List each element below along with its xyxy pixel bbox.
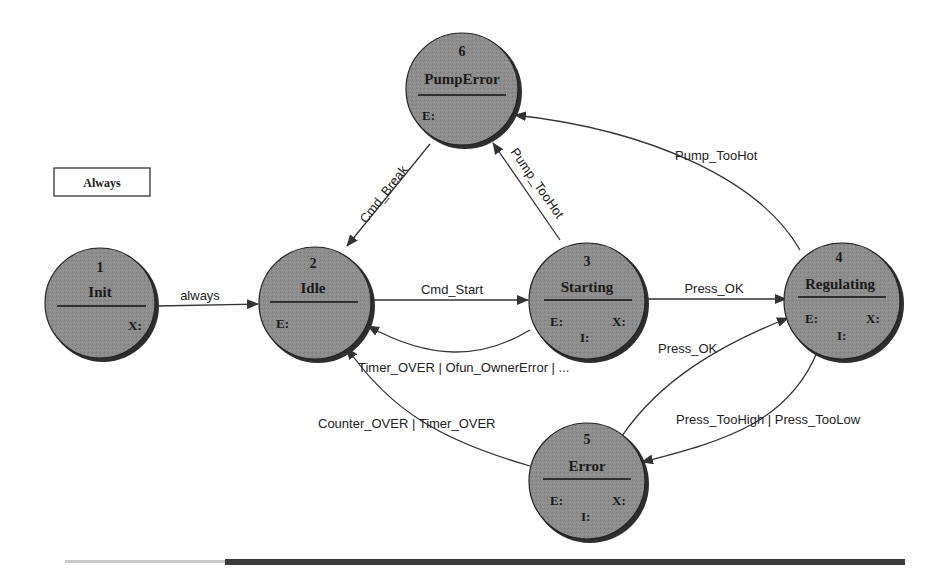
edge-label-press-ok-1: Press_OK [684, 281, 744, 296]
exit-action-label: X: [128, 318, 142, 333]
state-diagram: Always always Cmd_Start Timer_OVER | Ofu… [0, 0, 945, 572]
state-error[interactable]: 5 Error E: X: I: [529, 423, 649, 543]
state-number: 6 [459, 44, 466, 59]
edge-label-always: always [180, 288, 220, 303]
edge-starting-idle[interactable] [368, 326, 530, 352]
state-pumperror[interactable]: 6 PumpError E: [406, 33, 522, 149]
entry-action-label: E: [550, 493, 563, 508]
edge-label-pump-toohot-2: Pump_TooHot [675, 148, 758, 163]
state-number: 2 [310, 256, 317, 271]
edge-label-counter-over: Counter_OVER | Timer_OVER [318, 416, 496, 431]
edge-label-press-toohigh-toolow: Press_TooHigh | Press_TooLow [676, 412, 861, 427]
exit-action-label: X: [612, 314, 626, 329]
internal-action-label: I: [580, 330, 589, 345]
state-name: Starting [561, 279, 614, 295]
entry-action-label: E: [276, 316, 289, 331]
state-regulating[interactable]: 4 Regulating E: X: I: [784, 243, 904, 363]
state-number: 5 [584, 432, 591, 447]
edge-regulating-pumperror[interactable] [515, 115, 800, 250]
internal-action-label: I: [581, 509, 590, 524]
footer-bar [65, 559, 905, 565]
edge-label-cmd-start: Cmd_Start [421, 282, 484, 297]
state-number: 3 [584, 254, 591, 269]
entry-action-label: E: [422, 108, 435, 123]
internal-action-label: I: [837, 328, 846, 343]
edge-label-pump-toohot-1: Pump_TooHot [508, 145, 568, 221]
entry-action-label: E: [805, 311, 818, 326]
edge-init-idle[interactable] [157, 304, 258, 306]
entry-action-label: E: [550, 314, 563, 329]
state-number: 1 [97, 260, 104, 275]
exit-action-label: X: [866, 311, 880, 326]
edge-regulating-error[interactable] [642, 350, 818, 462]
state-idle[interactable]: 2 Idle E: [259, 247, 375, 363]
edge-label-timer-over: Timer_OVER | Ofun_OwnerError | ... [358, 360, 569, 375]
edge-label-cmd-break: Cmd_Break [357, 162, 411, 226]
state-name: Regulating [805, 276, 876, 292]
state-name: PumpError [424, 71, 500, 87]
state-init[interactable]: 1 Init X: [45, 248, 159, 362]
state-number: 4 [836, 250, 843, 265]
state-name: Init [88, 284, 111, 300]
state-name: Idle [300, 280, 325, 296]
exit-action-label: X: [612, 493, 626, 508]
legend-label: Always [83, 176, 121, 190]
state-starting[interactable]: 3 Starting E: X: I: [529, 243, 649, 363]
edge-label-press-ok-2: Press_OK [658, 341, 718, 356]
legend-always: Always [54, 168, 150, 196]
state-name: Error [568, 458, 606, 474]
